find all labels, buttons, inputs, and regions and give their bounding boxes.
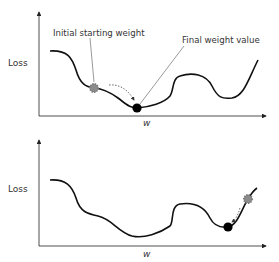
start-leader-line <box>90 38 94 82</box>
top-y-label: Loss <box>8 58 28 68</box>
initial-weight-label: Initial starting weight <box>53 28 145 38</box>
final-weight-label: Final weight value <box>182 35 260 45</box>
bottom-x-label: w <box>143 249 151 259</box>
final-weight-dot <box>132 103 141 112</box>
top-panel: Loss w Initial starting weight Final wei… <box>8 12 266 128</box>
bottom-start-weight-gear-icon <box>244 195 252 203</box>
top-x-label: w <box>143 118 151 128</box>
bottom-panel: Loss w <box>8 140 266 259</box>
bottom-final-weight-dot <box>223 222 232 231</box>
top-descent-arrow <box>109 85 134 100</box>
bottom-y-label: Loss <box>8 184 28 194</box>
top-loss-curve <box>50 51 258 108</box>
loss-landscape-diagram: Loss w Initial starting weight Final wei… <box>0 0 279 262</box>
final-leader-line <box>140 46 184 104</box>
start-weight-gear-icon <box>90 84 98 92</box>
